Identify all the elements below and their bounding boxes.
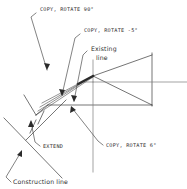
leader-lines [6, 13, 103, 182]
arrowhead-extend [28, 120, 34, 127]
label-copy-rotate-90: COPY, ROTATE 90° [40, 6, 94, 12]
arrowhead-copy-rotate-90 [44, 63, 50, 70]
cad-diagram-canvas: COPY, ROTATE 90° COPY, ROTATE -5° Existi… [0, 0, 187, 189]
leader-existing-line [74, 51, 87, 101]
label-extend: EXTEND [43, 143, 63, 149]
main-geometry [4, 53, 187, 178]
arrowhead-construction-line [17, 150, 22, 157]
triangle-lower-edge [93, 76, 152, 105]
label-construction-line: Construction line [13, 178, 68, 185]
label-existing-line-row2: line [96, 54, 108, 61]
converged-segment [78, 76, 93, 84]
label-copy-rotate-6: COPY, ROTATE 6° [106, 142, 157, 148]
diagram-labels: COPY, ROTATE 90° COPY, ROTATE -5° Existi… [13, 6, 157, 185]
leader-copy-rotate-6 [72, 108, 103, 145]
fan-closing-edge [36, 105, 48, 115]
leader-copy-rotate-90 [31, 13, 47, 70]
arrowhead-existing-line [71, 95, 77, 102]
cad-diagram-svg: COPY, ROTATE 90° COPY, ROTATE -5° Existi… [0, 0, 187, 189]
arrowhead-copy-rotate-minus5 [59, 89, 65, 96]
left-boundary-edge [24, 95, 36, 115]
label-copy-rotate-minus5: COPY, ROTATE -5° [84, 27, 138, 33]
label-existing-line-row1: Existing [91, 45, 117, 53]
